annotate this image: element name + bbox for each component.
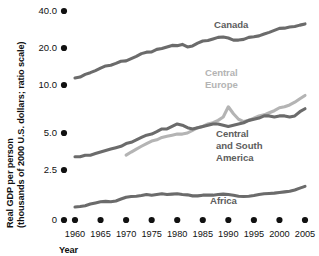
series-label-central-europe-line2: Europe <box>205 79 238 90</box>
x-tick-dot <box>149 217 155 223</box>
x-tick-label: 1970 <box>116 229 136 239</box>
gdp-per-person-chart: Real GDP per person (thousands of 2000 U… <box>0 0 319 256</box>
x-tick-dot <box>123 217 129 223</box>
x-tick-dot <box>97 217 103 223</box>
y-axis-title-line1: Real GDP per person <box>5 138 15 228</box>
y-tick-label: 5.0 <box>44 127 57 138</box>
x-tick-dot <box>174 217 180 223</box>
x-axis-ticks: 1960196519701975198019851990199520002005 <box>65 217 315 239</box>
x-tick-dot <box>72 217 78 223</box>
x-tick-dot <box>251 217 257 223</box>
series-lines <box>75 24 305 207</box>
x-tick-dot <box>225 217 231 223</box>
x-tick-label: 1980 <box>167 229 187 239</box>
x-axis-title: Year <box>59 245 79 255</box>
series-label-central-europe-line1: Central <box>205 67 238 78</box>
x-tick-label: 1995 <box>244 229 264 239</box>
x-tick-label: 1975 <box>141 229 161 239</box>
x-tick-dot <box>302 217 308 223</box>
y-axis-ticks: 40.020.010.05.02.50 <box>39 5 68 225</box>
y-tick-dot <box>61 167 67 173</box>
x-tick-label: 1990 <box>218 229 238 239</box>
y-tick-dot <box>61 8 67 14</box>
y-axis-title: Real GDP per person (thousands of 2000 U… <box>5 42 26 228</box>
series-line-africa <box>75 186 305 207</box>
x-tick-label: 1965 <box>90 229 110 239</box>
y-tick-dot <box>61 130 67 136</box>
y-tick-label: 20.0 <box>39 42 58 53</box>
y-tick-dot <box>61 82 67 88</box>
y-tick-dot <box>61 45 67 51</box>
x-tick-dot <box>276 217 282 223</box>
x-tick-label: 2005 <box>295 229 315 239</box>
x-tick-dot <box>200 217 206 223</box>
x-tick-label: 1985 <box>193 229 213 239</box>
series-label-canada: Canada <box>214 19 249 30</box>
y-axis-title-line2: (thousands of 2000 U.S. dollars; ratio s… <box>16 42 26 228</box>
x-tick-label: 2000 <box>269 229 289 239</box>
y-tick-label: 0 <box>52 214 57 225</box>
series-label-central-south-america-line3: America <box>216 152 254 163</box>
x-tick-label: 1960 <box>65 229 85 239</box>
y-tick-label: 2.5 <box>44 164 57 175</box>
series-label-central-south-america-line1: Central <box>216 128 249 139</box>
y-tick-label: 10.0 <box>39 79 58 90</box>
series-line-canada <box>75 24 305 78</box>
series-label-africa: Africa <box>210 195 238 206</box>
y-tick-label: 40.0 <box>39 5 58 16</box>
series-label-central-south-america-line2: and South <box>216 140 263 151</box>
y-tick-dot <box>61 217 67 223</box>
chart-canvas: Real GDP per person (thousands of 2000 U… <box>0 0 319 256</box>
